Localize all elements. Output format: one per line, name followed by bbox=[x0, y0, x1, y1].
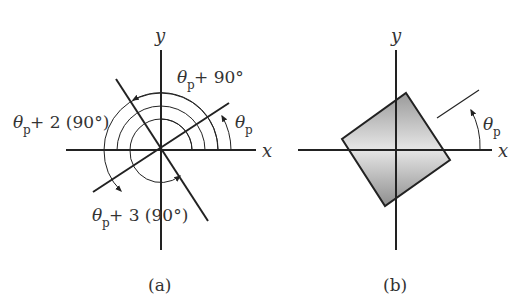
svg-text:+ 90°: + 90° bbox=[194, 67, 244, 87]
figure: y x θ p + 90° θ p θ p + 2 (90°) θ p + 3 … bbox=[0, 0, 509, 300]
svg-text:θ: θ bbox=[483, 114, 493, 134]
label-theta-p-plus-90: θ p + 90° bbox=[177, 67, 244, 92]
svg-text:p: p bbox=[493, 125, 501, 139]
label-theta-p-plus-3-90: θ p + 3 (90°) bbox=[92, 205, 188, 230]
arc-theta-p bbox=[222, 116, 231, 150]
svg-text:p: p bbox=[245, 123, 253, 137]
label-theta-p: θ p bbox=[235, 112, 253, 137]
svg-text:θ: θ bbox=[92, 205, 102, 225]
svg-text:θ: θ bbox=[235, 112, 245, 132]
caption-b: (b) bbox=[383, 275, 407, 295]
x-axis-label-b: x bbox=[498, 140, 508, 161]
label-theta-p-b: θ p bbox=[483, 114, 501, 139]
svg-text:θ: θ bbox=[177, 67, 187, 87]
y-axis-label-b: y bbox=[390, 25, 402, 46]
label-theta-p-plus-2-90: θ p + 2 (90°) bbox=[13, 112, 109, 137]
svg-text:+ 3 (90°): + 3 (90°) bbox=[109, 205, 188, 225]
x-axis-label-a: x bbox=[262, 140, 272, 161]
y-axis-label-a: y bbox=[154, 25, 166, 46]
arc-theta-p-b bbox=[471, 110, 480, 150]
panel-a: y x θ p + 90° θ p θ p + 2 (90°) θ p + 3 … bbox=[13, 25, 272, 295]
caption-a: (a) bbox=[148, 275, 171, 295]
svg-text:θ: θ bbox=[13, 112, 23, 132]
arc-plus-90 bbox=[133, 93, 218, 150]
panel-b: y x θ p (b) bbox=[298, 25, 508, 295]
svg-text:+ 2 (90°): + 2 (90°) bbox=[30, 112, 109, 132]
